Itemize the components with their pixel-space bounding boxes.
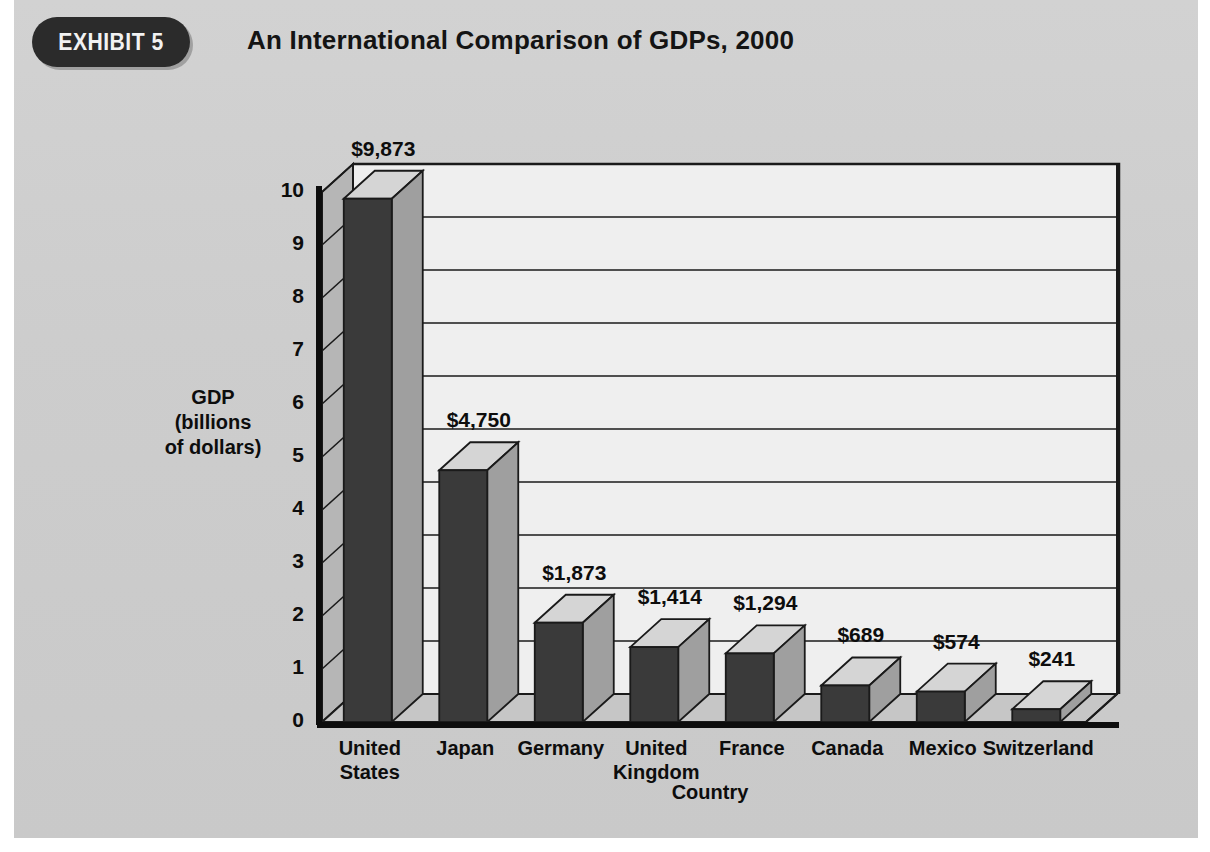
bar-front-face-4 bbox=[726, 653, 774, 722]
y-tick-label-2: 2 bbox=[264, 602, 304, 626]
exhibit-page: EXHIBIT 5 An International Comparison of… bbox=[0, 0, 1210, 852]
bar-front-face-0 bbox=[344, 199, 392, 722]
bar-value-label-4: $1,294 bbox=[695, 591, 835, 615]
y-tick-label-9: 9 bbox=[264, 231, 304, 255]
y-tick-label-8: 8 bbox=[264, 284, 304, 308]
y-tick-label-5: 5 bbox=[264, 443, 304, 467]
bar-value-label-0: $9,873 bbox=[313, 137, 453, 161]
y-tick-label-7: 7 bbox=[264, 337, 304, 361]
bar-value-label-7: $241 bbox=[982, 647, 1122, 671]
bar-chart: GDP(billionsof dollars) Country 01234567… bbox=[0, 0, 1184, 838]
y-tick-label-4: 4 bbox=[264, 496, 304, 520]
bar-front-face-7 bbox=[1012, 709, 1060, 722]
bar-value-label-2: $1,873 bbox=[504, 561, 644, 585]
y-tick-label-6: 6 bbox=[264, 390, 304, 414]
bar-front-face-1 bbox=[439, 470, 487, 722]
bar-group-0 bbox=[344, 171, 423, 722]
y-tick-label-3: 3 bbox=[264, 549, 304, 573]
y-tick-label-10: 10 bbox=[264, 178, 304, 202]
bar-side-face-0 bbox=[392, 171, 423, 722]
bar-front-face-6 bbox=[917, 692, 965, 722]
bar-front-face-2 bbox=[535, 623, 583, 722]
x-category-label-3-line-1: Kingdom bbox=[594, 760, 718, 784]
y-tick-label-1: 1 bbox=[264, 655, 304, 679]
bar-front-face-5 bbox=[821, 685, 869, 722]
bar-group-2 bbox=[535, 595, 614, 722]
x-category-label-0-line-1: States bbox=[308, 760, 432, 784]
bar-value-label-1: $4,750 bbox=[409, 408, 549, 432]
x-category-label-7-line-0: Switzerland bbox=[976, 736, 1100, 760]
y-tick-label-0: 0 bbox=[264, 708, 304, 732]
bar-front-face-3 bbox=[630, 647, 678, 722]
x-category-label-7: Switzerland bbox=[976, 736, 1100, 760]
